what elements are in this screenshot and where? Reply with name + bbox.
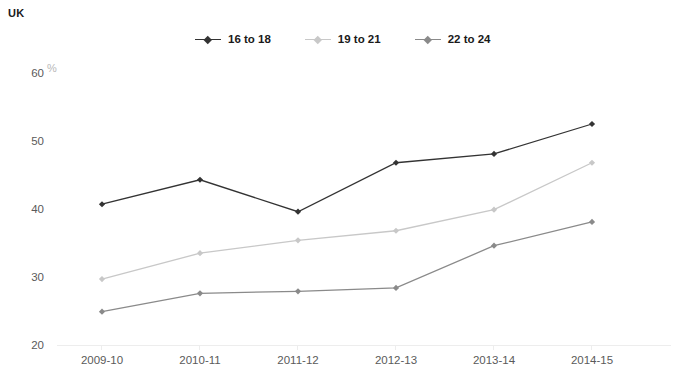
data-point-marker[interactable] xyxy=(99,276,105,282)
data-point-marker[interactable] xyxy=(393,160,399,166)
series-22-to-24 xyxy=(99,219,595,315)
data-point-marker[interactable] xyxy=(295,237,301,243)
data-point-marker[interactable] xyxy=(491,243,497,249)
data-point-marker[interactable] xyxy=(197,250,203,256)
data-point-marker[interactable] xyxy=(295,209,301,215)
data-point-marker[interactable] xyxy=(99,309,105,315)
data-point-marker[interactable] xyxy=(491,207,497,213)
data-point-marker[interactable] xyxy=(589,219,595,225)
data-point-marker[interactable] xyxy=(197,290,203,296)
data-point-marker[interactable] xyxy=(589,160,595,166)
chart-plot-area: 2030405060 2009-102010-112011-122012-132… xyxy=(0,0,673,382)
series-canvas xyxy=(0,0,673,382)
series-16-to-18 xyxy=(99,121,595,215)
data-point-marker[interactable] xyxy=(295,288,301,294)
data-point-marker[interactable] xyxy=(197,177,203,183)
series-line xyxy=(102,163,592,279)
data-point-marker[interactable] xyxy=(589,121,595,127)
series-19-to-21 xyxy=(99,160,595,282)
data-point-marker[interactable] xyxy=(99,201,105,207)
data-point-marker[interactable] xyxy=(491,151,497,157)
data-point-marker[interactable] xyxy=(393,285,399,291)
data-point-marker[interactable] xyxy=(393,228,399,234)
